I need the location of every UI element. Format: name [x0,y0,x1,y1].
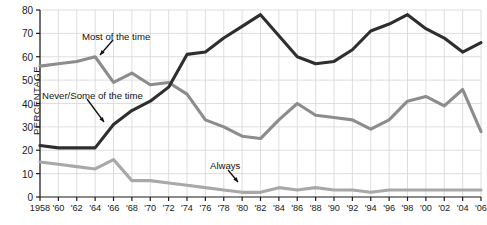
series-label: Never/Some of the time [42,90,143,101]
x-tick-label: '86 [291,203,303,213]
x-tick-label: '78 [218,203,230,213]
y-tick-label: 50 [9,75,33,86]
x-tick-label: '88 [310,203,322,213]
x-tick-label: '60 [52,203,64,213]
x-tick-label: '68 [126,203,138,213]
x-tick-label: 1958 [30,203,50,213]
y-tick-label: 70 [9,28,33,39]
x-tick-label: '98 [402,203,414,213]
x-tick-label: '94 [365,203,377,213]
y-tick-label: 40 [9,98,33,109]
x-tick-label: '02 [438,203,450,213]
x-tick-label: '62 [71,203,83,213]
y-tick-label: 60 [9,51,33,62]
y-tick-label: 20 [9,145,33,156]
x-tick-label: '70 [144,203,156,213]
y-tick-label: 80 [9,5,33,16]
y-tick-label: 0 [9,192,33,203]
x-tick-label: '92 [346,203,358,213]
x-tick-label: '96 [383,203,395,213]
series-label: Most of the time [82,31,150,42]
x-tick-label: '80 [236,203,248,213]
x-tick-label: '00 [420,203,432,213]
x-tick-label: '64 [89,203,101,213]
x-tick-label: '06 [475,203,487,213]
x-tick-label: '74 [181,203,193,213]
x-tick-label: '04 [457,203,469,213]
x-tick-label: '72 [163,203,175,213]
series-label: Always [210,160,240,171]
x-tick-label: '82 [255,203,267,213]
x-tick-label: '76 [199,203,211,213]
x-tick-label: '66 [108,203,120,213]
y-tick-label: 30 [9,121,33,132]
y-tick-label: 10 [9,168,33,179]
x-tick-label: '84 [273,203,285,213]
x-tick-label: '90 [328,203,340,213]
